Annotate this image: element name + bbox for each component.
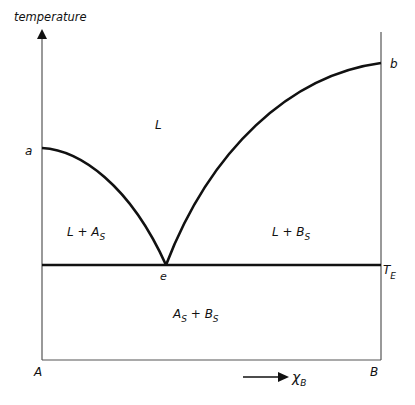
point-b-label: b <box>390 57 398 71</box>
point-a-label: a <box>25 144 32 158</box>
composition-arrow-icon <box>278 372 289 382</box>
region-L-plus-Bs-label: L + BS <box>272 225 311 242</box>
point-e-label: e <box>160 270 167 283</box>
component-B-label: B <box>370 365 378 379</box>
composition-label: χB <box>291 369 306 388</box>
liquidus-curve-left <box>42 148 166 265</box>
region-L-plus-As-label: L + AS <box>67 225 106 242</box>
temperature-axis-arrow-icon <box>37 29 47 39</box>
region-liquid-label: L <box>155 118 162 132</box>
region-As-plus-Bs-label: AS + BS <box>172 307 219 324</box>
component-A-label: A <box>33 365 42 379</box>
phase-diagram: temperature a b e TE L L + AS L + BS AS … <box>0 0 415 405</box>
temperature-label: temperature <box>14 10 87 24</box>
eutectic-temp-label: TE <box>383 263 396 281</box>
